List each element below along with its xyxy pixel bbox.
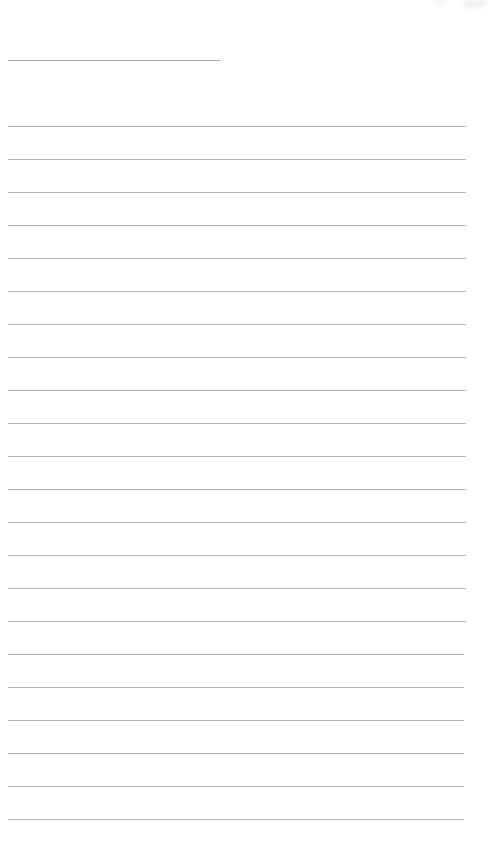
ruled-line bbox=[8, 555, 466, 556]
corner-smudge bbox=[463, 0, 487, 9]
ruled-line bbox=[8, 819, 464, 820]
ruled-line bbox=[8, 357, 466, 358]
ruled-line bbox=[8, 654, 464, 655]
corner-smudge bbox=[432, 0, 446, 5]
ruled-line bbox=[8, 423, 466, 424]
ruled-line bbox=[8, 720, 464, 721]
title-line bbox=[8, 60, 220, 61]
ruled-line bbox=[8, 225, 466, 226]
ruled-line bbox=[8, 192, 466, 193]
ruled-line bbox=[8, 522, 466, 523]
ruled-line bbox=[8, 588, 466, 589]
ruled-line bbox=[8, 258, 466, 259]
ruled-line bbox=[8, 291, 466, 292]
ruled-line bbox=[8, 621, 466, 622]
ruled-line bbox=[8, 126, 466, 127]
ruled-line bbox=[8, 390, 466, 391]
ruled-line bbox=[8, 786, 464, 787]
ruled-line bbox=[8, 489, 466, 490]
ruled-line bbox=[8, 159, 466, 160]
ruled-line bbox=[8, 456, 466, 457]
ruled-line bbox=[8, 324, 466, 325]
ruled-line bbox=[8, 687, 464, 688]
ruled-line bbox=[8, 753, 464, 754]
